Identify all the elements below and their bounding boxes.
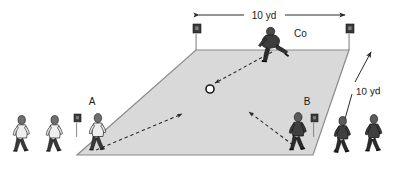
ball-icon — [206, 85, 214, 93]
player-b-label: B — [304, 96, 311, 107]
player-a-label: A — [89, 96, 96, 107]
flag-bottom-left — [74, 114, 81, 137]
dimension-top-label: 10 yd — [252, 10, 276, 21]
diagram-canvas: 10 yd 10 yd — [0, 0, 398, 171]
dimension-right-arrow-upper — [355, 52, 371, 82]
dimension-right-label: 10 yd — [356, 85, 381, 97]
drill-diagram: 10 yd 10 yd — [0, 0, 398, 171]
coach-label: Co — [294, 28, 307, 39]
queue-left-player-2 — [46, 116, 62, 152]
queue-right-player-2 — [365, 115, 382, 152]
queue-left-player-1 — [13, 116, 29, 152]
queue-right-player-1 — [334, 117, 350, 153]
dimension-top: 10 yd — [199, 10, 345, 21]
flag-top-right — [346, 24, 354, 50]
flag-top-left — [193, 24, 201, 50]
